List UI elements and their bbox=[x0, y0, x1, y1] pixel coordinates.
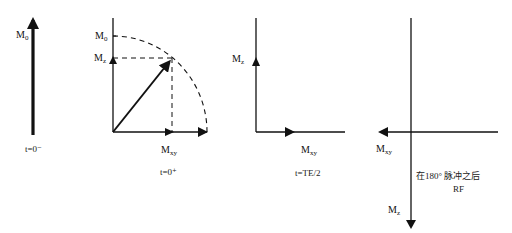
caption-after-180-line1: 在180° 脉冲之后 bbox=[416, 171, 480, 181]
label-sub: xy bbox=[385, 148, 392, 156]
label-main: M bbox=[376, 143, 385, 154]
label-main: M bbox=[161, 144, 170, 155]
label-mz: Mz bbox=[388, 205, 400, 218]
magnetization-diagram: M0 t=0⁻ M0 Mz Mxy t=0⁺ Mz Mxy t=TE/2 Mxy… bbox=[0, 0, 512, 233]
label-sub: 0 bbox=[104, 35, 108, 43]
mz-arrowhead bbox=[109, 56, 117, 64]
label-m0: M0 bbox=[16, 30, 28, 43]
caption-t0-minus: t=0⁻ bbox=[25, 144, 42, 154]
label-main: M bbox=[95, 30, 104, 41]
label-m0: M0 bbox=[95, 31, 107, 44]
caption-after-180-line2: RF bbox=[453, 184, 464, 194]
label-mxy: Mxy bbox=[376, 144, 392, 157]
mxy-left-arrowhead bbox=[378, 127, 388, 137]
mz-down-arrowhead bbox=[406, 220, 416, 229]
label-mz: Mz bbox=[94, 53, 106, 66]
label-mxy: Mxy bbox=[161, 145, 177, 158]
m0-dashed-arc bbox=[113, 36, 207, 132]
mz-arrowhead bbox=[252, 57, 260, 66]
label-sub: 0 bbox=[25, 34, 29, 42]
label-main: M bbox=[232, 53, 241, 64]
mxy-arrowhead bbox=[165, 128, 174, 136]
label-mxy: Mxy bbox=[301, 145, 317, 158]
label-sub: z bbox=[397, 209, 400, 217]
mxy-arrowhead bbox=[285, 127, 295, 137]
label-sub: z bbox=[103, 57, 106, 65]
label-main: M bbox=[388, 204, 397, 215]
label-sub: z bbox=[241, 58, 244, 66]
caption-te-half: t=TE/2 bbox=[295, 168, 321, 178]
panel-te-half bbox=[252, 18, 345, 137]
panel-after-180 bbox=[378, 18, 498, 229]
label-main: M bbox=[94, 52, 103, 63]
tipped-vector-arrow bbox=[113, 62, 169, 132]
diagram-graphics bbox=[0, 0, 512, 233]
label-main: M bbox=[16, 29, 25, 40]
label-sub: xy bbox=[170, 149, 177, 157]
label-mz: Mz bbox=[232, 54, 244, 67]
label-sub: xy bbox=[310, 149, 317, 157]
panel-t0-plus bbox=[109, 18, 208, 137]
caption-t0-plus: t=0⁺ bbox=[160, 167, 177, 177]
label-main: M bbox=[301, 144, 310, 155]
